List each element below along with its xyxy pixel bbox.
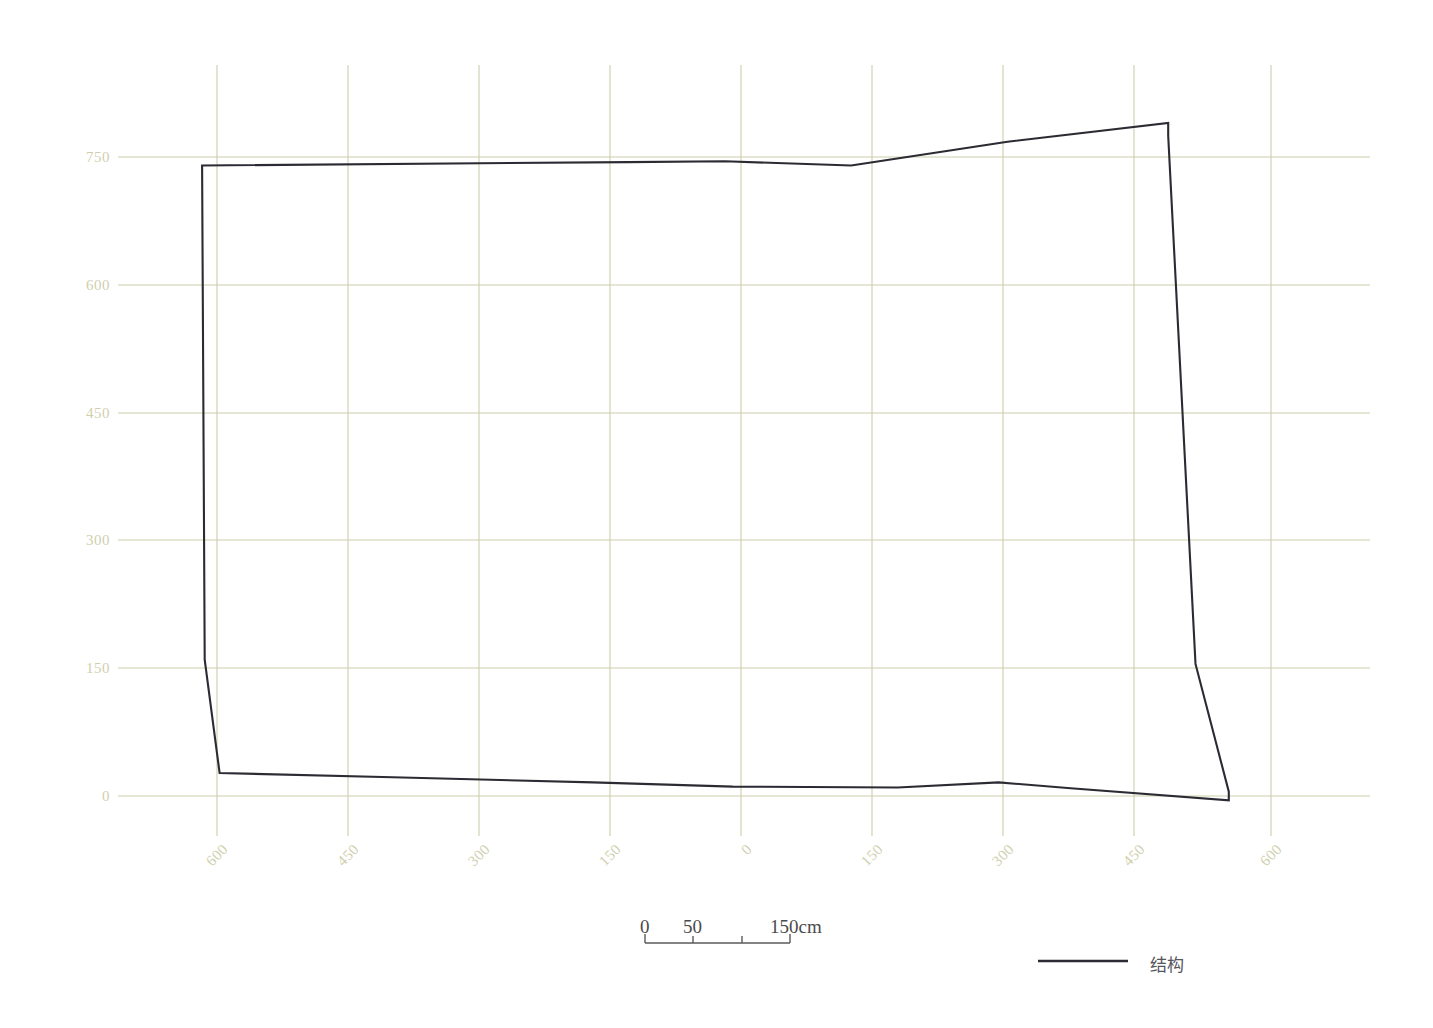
scale-label-50: 50 xyxy=(683,916,702,938)
scale-label-150cm: 150cm xyxy=(770,916,822,938)
structure-outline xyxy=(202,123,1229,800)
horizontal-gridlines xyxy=(118,157,1370,796)
structure-polygon xyxy=(202,123,1229,800)
y-tick-label-750: 750 xyxy=(86,149,110,166)
archaeological-plan-figure: 750 600 450 300 150 0 600 450 300 150 0 … xyxy=(0,0,1433,1028)
scale-bar xyxy=(645,934,790,943)
y-tick-label-0: 0 xyxy=(102,788,110,805)
y-tick-label-150: 150 xyxy=(86,660,110,677)
legend-entry-label-structure: 结构 xyxy=(1150,951,1184,976)
plan-drawing-canvas xyxy=(0,0,1433,1028)
y-tick-label-300: 300 xyxy=(86,532,110,549)
vertical-gridlines xyxy=(217,65,1271,836)
scale-label-0: 0 xyxy=(640,916,650,938)
y-tick-label-600: 600 xyxy=(86,277,110,294)
y-tick-label-450: 450 xyxy=(86,405,110,422)
